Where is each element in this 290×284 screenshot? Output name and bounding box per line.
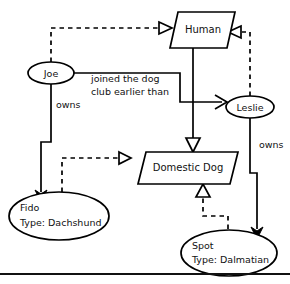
edge-leslie-spot-line: [250, 118, 257, 229]
node-human[interactable]: Human: [170, 12, 235, 48]
diagram-canvas: Human : up from Joe ellipse top, right, …: [0, 0, 290, 284]
edge-label-joined-line2: club earlier than: [91, 86, 169, 97]
edge-joe-instance-of-human[interactable]: [51, 22, 172, 62]
uml-object-diagram: Human : up from Joe ellipse top, right, …: [0, 0, 290, 284]
edge-label-owns-left: owns: [56, 99, 81, 110]
node-spot-label-type: Type: Dalmatian: [191, 254, 269, 265]
node-fido-label-type: Type: Dachshund: [19, 217, 101, 228]
hollow-triangle-icon: [186, 138, 200, 152]
node-human-label: Human: [185, 24, 221, 35]
node-joe[interactable]: Joe: [28, 62, 74, 84]
edge-leslie-human-line: [242, 32, 250, 96]
node-spot[interactable]: Spot Type: Dalmatian: [181, 230, 277, 276]
edge-leslie-instance-of-human[interactable]: [228, 26, 250, 96]
hollow-triangle-icon: [119, 152, 131, 164]
edge-fido-dog-line: [62, 158, 118, 192]
node-leslie-label: Leslie: [236, 102, 263, 113]
edge-joe-owns-fido[interactable]: owns: [35, 84, 81, 202]
edge-spot-instance-of-domestic-dog[interactable]: [196, 184, 228, 229]
node-spot-shape: [181, 230, 277, 276]
edge-fido-instance-of-domestic-dog[interactable]: [62, 152, 131, 192]
node-fido[interactable]: Fido Type: Dachshund: [9, 192, 109, 240]
node-spot-label-name: Spot: [192, 240, 214, 251]
edge-label-owns-right: owns: [259, 139, 284, 150]
hollow-triangle-icon: [159, 22, 172, 34]
edge-human-owns-domestic-dog[interactable]: [186, 48, 200, 152]
node-fido-shape: [9, 192, 109, 240]
node-domestic-dog-label: Domestic Dog: [153, 162, 223, 173]
hollow-triangle-icon: [196, 184, 210, 197]
node-leslie[interactable]: Leslie: [226, 96, 274, 118]
edge-joe-fido-line: [41, 84, 51, 192]
node-joe-label: Joe: [43, 68, 59, 79]
node-domestic-dog[interactable]: Domestic Dog: [138, 152, 238, 184]
edge-leslie-owns-spot[interactable]: owns: [250, 118, 284, 239]
node-fido-label-name: Fido: [20, 202, 39, 213]
edge-joe-joined-earlier-than-leslie[interactable]: joined the dog club earlier than: [74, 73, 227, 109]
edge-joe-human-line: [51, 28, 158, 62]
edge-label-joined-line1: joined the dog: [90, 73, 160, 84]
edge-spot-dog-line: [203, 197, 228, 229]
